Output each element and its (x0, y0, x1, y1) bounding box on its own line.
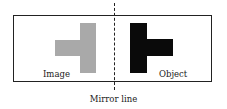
object-shape-stem (130, 23, 147, 73)
image-shape-stem (80, 23, 96, 73)
object-shape-arm (146, 39, 173, 56)
mirror-line (114, 3, 115, 90)
mirror-line-caption: Mirror line (0, 95, 227, 104)
mirror-diagram: Image Object Mirror line (0, 0, 227, 109)
object-label: Object (159, 70, 187, 79)
image-label: Image (43, 70, 70, 79)
image-shape-arm (55, 40, 81, 56)
